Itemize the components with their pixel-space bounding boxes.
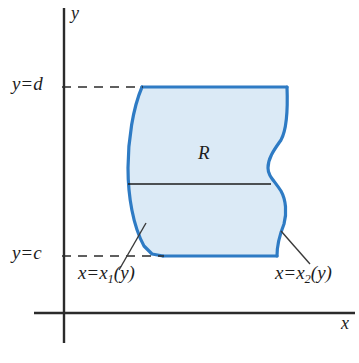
label-right-curve-equation: x=x2(y) — [275, 263, 332, 282]
label-right-curve-arg: (y) — [311, 262, 332, 283]
y-axis-label: y — [71, 4, 79, 22]
label-y-equals-d: y=d — [12, 74, 43, 93]
label-left-curve-equation: x=x1(y) — [78, 263, 135, 282]
label-left-curve-arg: (y) — [114, 262, 135, 283]
label-right-curve-eq: = — [283, 262, 296, 283]
label-y-equals-c: y=c — [12, 243, 42, 262]
right-leader-line — [281, 231, 310, 264]
label-right-curve-fn: x — [296, 262, 304, 283]
x-axis-label: x — [341, 314, 349, 332]
region-fill — [128, 87, 287, 256]
label-left-curve-fn: x — [99, 262, 107, 283]
label-y-equals-d-eq: = — [20, 73, 33, 94]
label-y-equals-c-value: c — [33, 242, 41, 263]
figure-region-between-curves: y=d y=c x=x1(y) x=x2(y) R y x — [0, 0, 359, 363]
diagram-canvas — [0, 0, 359, 363]
region-label-R: R — [198, 143, 210, 162]
label-y-equals-c-eq: = — [20, 242, 33, 263]
label-left-curve-eq: = — [86, 262, 99, 283]
label-y-equals-d-value: d — [33, 73, 43, 94]
